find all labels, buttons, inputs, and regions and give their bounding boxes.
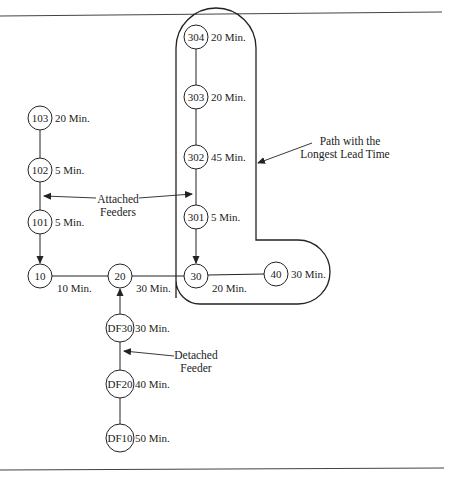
node-102: 102 5 Min. xyxy=(28,158,85,182)
detached-feeder-label-line2: Feeder xyxy=(180,362,211,374)
time-label: 20 Min. xyxy=(55,112,90,124)
detached-feeder-label-line1: Detached xyxy=(174,349,218,361)
node-label: 301 xyxy=(188,211,205,223)
edge-30-40 xyxy=(208,274,264,275)
time-label: 5 Min. xyxy=(55,216,85,228)
detached-arrow xyxy=(124,351,174,356)
node-DF30: DF30 30 Min. xyxy=(106,314,170,342)
node-20: 20 30 Min. xyxy=(108,264,171,294)
node-label: 30 xyxy=(191,270,203,282)
node-label: DF10 xyxy=(107,432,133,444)
node-10: 10 10 Min. xyxy=(28,264,92,294)
node-label: 20 xyxy=(115,270,127,282)
node-label: 302 xyxy=(188,151,205,163)
node-label: DF30 xyxy=(107,322,133,334)
time-label: 30 Min. xyxy=(291,268,326,280)
node-301: 301 5 Min. xyxy=(184,205,241,229)
longest-path-label-line2: Longest Lead Time xyxy=(300,148,389,161)
node-30: 30 20 Min. xyxy=(184,264,247,294)
node-DF20: DF20 40 Min. xyxy=(106,370,170,398)
time-label: 40 Min. xyxy=(135,378,170,390)
node-103: 103 20 Min. xyxy=(28,106,90,130)
node-label: 101 xyxy=(32,216,49,228)
time-label: 20 Min. xyxy=(211,91,246,103)
longest-path-label-line1: Path with the xyxy=(320,135,381,147)
node-303: 303 20 Min. xyxy=(184,85,246,109)
node-label: 40 xyxy=(271,268,283,280)
attached-feeders-label-line1: Attached xyxy=(97,193,139,205)
process-network-diagram: 304 20 Min. 303 20 Min. 302 45 Min. 301 … xyxy=(0,0,450,479)
attached-arrow-left xyxy=(44,196,96,198)
node-label: 304 xyxy=(188,31,205,43)
time-label: 50 Min. xyxy=(135,432,170,444)
bottom-rule xyxy=(0,468,444,470)
attached-feeders-label-line2: Feeders xyxy=(100,206,136,218)
node-304: 304 20 Min. xyxy=(184,25,246,49)
node-302: 302 45 Min. xyxy=(184,145,246,169)
node-DF10: DF10 50 Min. xyxy=(106,424,170,452)
time-label: 30 Min. xyxy=(135,322,170,334)
time-label: 5 Min. xyxy=(211,211,241,223)
node-label: 303 xyxy=(188,91,205,103)
node-label: 103 xyxy=(32,112,49,124)
time-label: 20 Min. xyxy=(212,282,247,294)
time-label: 45 Min. xyxy=(211,151,246,163)
time-label: 10 Min. xyxy=(57,282,92,294)
node-label: DF20 xyxy=(107,378,133,390)
node-40: 40 30 Min. xyxy=(264,262,326,286)
time-label: 30 Min. xyxy=(136,282,171,294)
top-rule xyxy=(0,12,442,16)
node-101: 101 5 Min. xyxy=(28,210,85,234)
time-label: 20 Min. xyxy=(211,31,246,43)
node-label: 10 xyxy=(35,270,47,282)
time-label: 5 Min. xyxy=(55,164,85,176)
attached-arrow-right xyxy=(139,194,192,198)
node-label: 102 xyxy=(32,164,49,176)
